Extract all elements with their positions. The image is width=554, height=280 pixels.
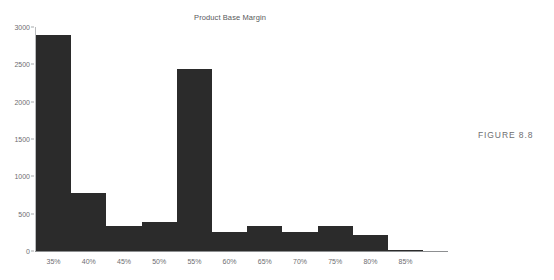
x-axis-tick-label: 55% bbox=[187, 258, 201, 265]
x-axis-tick-label: 35% bbox=[47, 258, 61, 265]
x-axis-tick-label: 75% bbox=[328, 258, 342, 265]
figure-page: Product Base Margin 05001000150020002500… bbox=[0, 0, 554, 280]
x-axis-tick-label: 85% bbox=[399, 258, 413, 265]
x-axis-tick-label: 65% bbox=[258, 258, 272, 265]
figure-caption: FIGURE 8.8 bbox=[478, 130, 533, 140]
x-axis-tick-label: 45% bbox=[117, 258, 131, 265]
x-axis-tick-labels: 35%40%45%50%55%60%65%70%75%80%85% bbox=[0, 0, 460, 280]
x-axis-tick-label: 50% bbox=[152, 258, 166, 265]
x-axis-tick-label: 80% bbox=[363, 258, 377, 265]
histogram-chart: Product Base Margin 05001000150020002500… bbox=[0, 0, 460, 280]
x-axis-tick-label: 40% bbox=[82, 258, 96, 265]
x-axis-tick-label: 70% bbox=[293, 258, 307, 265]
x-axis-tick-label: 60% bbox=[223, 258, 237, 265]
